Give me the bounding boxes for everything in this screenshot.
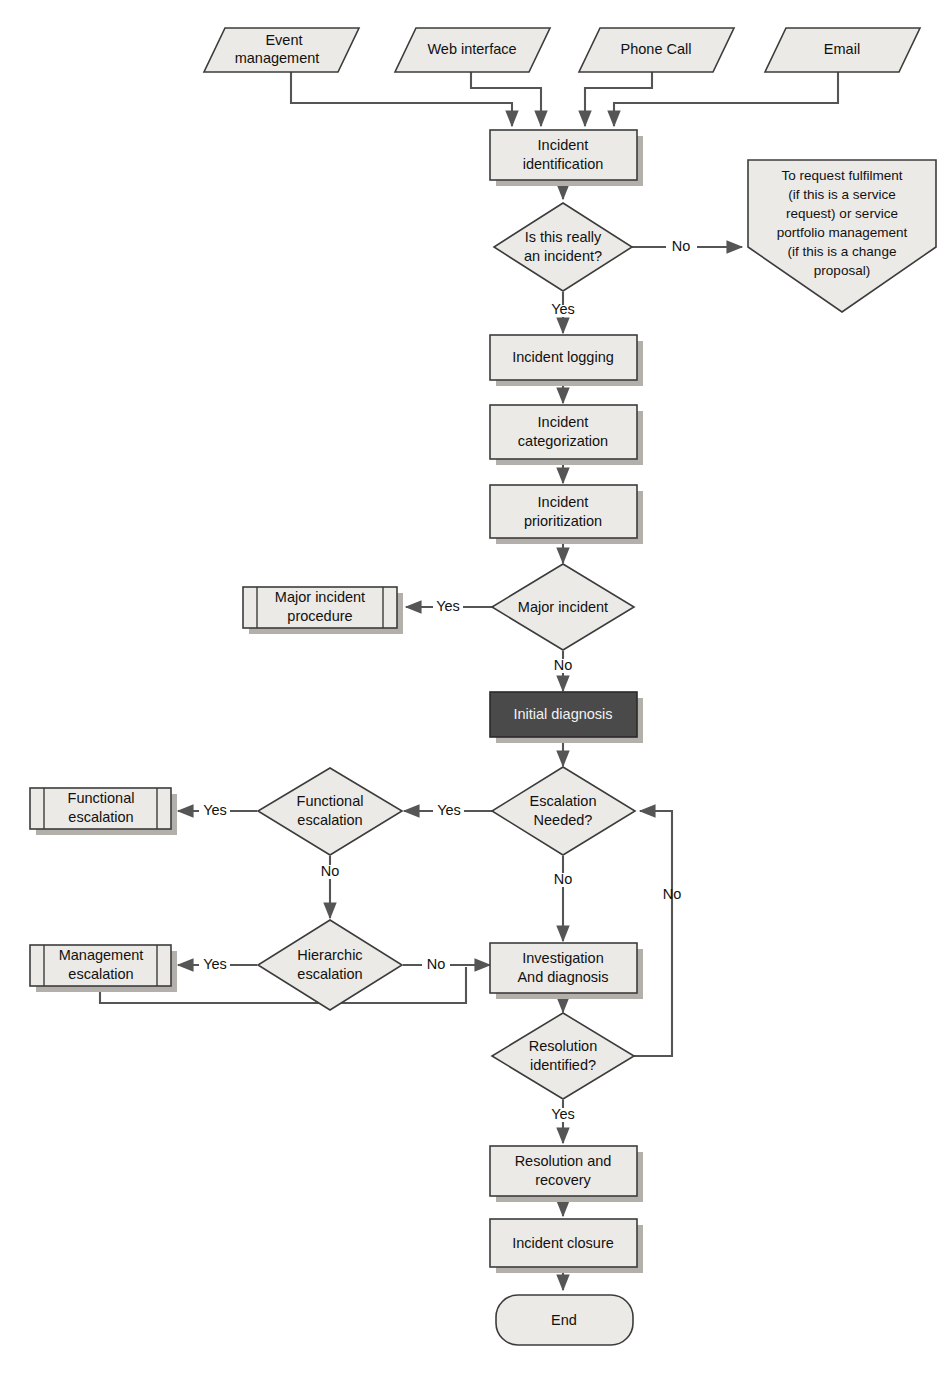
node-label: identified? — [530, 1057, 596, 1073]
node-phone-call[interactable]: Phone Call — [579, 28, 734, 72]
node-incident-closure[interactable]: Incident closure — [490, 1219, 643, 1273]
node-label: Management — [59, 947, 144, 963]
node-major-incident-procedure[interactable]: Major incident procedure — [243, 587, 403, 634]
node-label: identification — [523, 156, 604, 172]
edge-label-escalation-no: No — [554, 871, 573, 887]
node-management-escalation-process[interactable]: Management escalation — [30, 945, 177, 992]
node-escalation-needed[interactable]: Escalation Needed? — [492, 767, 635, 855]
node-resolution-and-recovery[interactable]: Resolution and recovery — [490, 1146, 643, 1202]
edge-web-interface-to-identification — [471, 72, 541, 126]
node-label: Major incident — [518, 599, 608, 615]
node-label: Initial diagnosis — [513, 706, 612, 722]
node-label: Hierarchic — [297, 947, 362, 963]
node-label: (if this is a service — [788, 187, 895, 202]
node-event-management[interactable]: Event management — [204, 28, 359, 72]
node-label: (if this is a change — [788, 244, 897, 259]
node-end[interactable]: End — [496, 1295, 633, 1345]
node-label: To request fulfilment — [782, 168, 903, 183]
node-label: escalation — [68, 809, 133, 825]
edge-label-resolution-no: No — [663, 886, 682, 902]
node-is-this-really-an-incident[interactable]: Is this really an incident? — [494, 203, 632, 291]
edge-label-is-incident-yes: Yes — [551, 301, 575, 317]
node-label: portfolio management — [777, 225, 908, 240]
edge-event-management-to-identification — [291, 72, 512, 126]
node-functional-escalation-process[interactable]: Functional escalation — [30, 788, 177, 835]
node-investigation-and-diagnosis[interactable]: Investigation And diagnosis — [490, 943, 643, 999]
node-incident-categorization[interactable]: Incident categorization — [490, 405, 643, 465]
edge-label-functional-no: No — [321, 863, 340, 879]
node-label: Phone Call — [621, 41, 692, 57]
node-label: procedure — [287, 608, 352, 624]
node-resolution-identified[interactable]: Resolution identified? — [492, 1013, 634, 1099]
node-label: escalation — [297, 812, 362, 828]
node-label: Incident — [538, 137, 589, 153]
node-label: Event — [265, 32, 302, 48]
node-label: Functional — [68, 790, 135, 806]
node-major-incident[interactable]: Major incident — [492, 564, 634, 650]
edge-label-resolution-yes: Yes — [551, 1106, 575, 1122]
flowchart-canvas: Event management Web interface Phone Cal… — [0, 0, 946, 1379]
node-label: Resolution and — [515, 1153, 612, 1169]
node-label: categorization — [518, 433, 608, 449]
edge-label-hierarchic-no: No — [427, 956, 446, 972]
edge-label-major-incident-yes: Yes — [436, 598, 460, 614]
node-label: Incident — [538, 414, 589, 430]
node-incident-identification[interactable]: Incident identification — [490, 130, 643, 186]
node-label: End — [551, 1312, 577, 1328]
node-label: And diagnosis — [517, 969, 608, 985]
node-label: Investigation — [522, 950, 603, 966]
node-initial-diagnosis[interactable]: Initial diagnosis — [490, 692, 643, 743]
node-incident-logging[interactable]: Incident logging — [490, 335, 643, 386]
node-functional-escalation-decision[interactable]: Functional escalation — [258, 768, 402, 855]
node-label: prioritization — [524, 513, 602, 529]
node-label: recovery — [535, 1172, 591, 1188]
node-label: proposal) — [814, 263, 870, 278]
edge-resolution-no-to-escalation-needed — [633, 811, 672, 1056]
node-label: Incident logging — [512, 349, 614, 365]
node-hierarchic-escalation-decision[interactable]: Hierarchic escalation — [258, 920, 402, 1010]
node-email[interactable]: Email — [765, 28, 920, 72]
node-label: Escalation — [530, 793, 597, 809]
edge-label-is-incident-no: No — [672, 238, 691, 254]
edge-label-escalation-yes: Yes — [437, 802, 461, 818]
edge-label-major-incident-no: No — [554, 657, 573, 673]
edge-label-functional-yes: Yes — [203, 802, 227, 818]
edge-label-hierarchic-yes: Yes — [203, 956, 227, 972]
node-label: escalation — [297, 966, 362, 982]
node-web-interface[interactable]: Web interface — [395, 28, 550, 72]
node-label: Major incident — [275, 589, 365, 605]
node-label: Functional — [297, 793, 364, 809]
incident-management-flowchart: Event management Web interface Phone Cal… — [0, 0, 946, 1379]
edge-email-to-identification — [614, 72, 838, 126]
node-label: Needed? — [534, 812, 593, 828]
edges-layer — [100, 72, 838, 1290]
node-label: management — [235, 50, 320, 66]
node-label: Web interface — [427, 41, 516, 57]
node-label: request) or service — [786, 206, 898, 221]
node-label: escalation — [68, 966, 133, 982]
node-label: an incident? — [524, 248, 602, 264]
node-label: Incident closure — [512, 1235, 614, 1251]
node-label: Incident — [538, 494, 589, 510]
node-label: Is this really — [525, 229, 602, 245]
node-incident-prioritization[interactable]: Incident prioritization — [490, 485, 643, 544]
edge-phone-call-to-identification — [585, 72, 652, 126]
node-to-request-fulfilment[interactable]: To request fulfilment (if this is a serv… — [748, 160, 936, 312]
node-label: Resolution — [529, 1038, 598, 1054]
node-label: Email — [824, 41, 860, 57]
